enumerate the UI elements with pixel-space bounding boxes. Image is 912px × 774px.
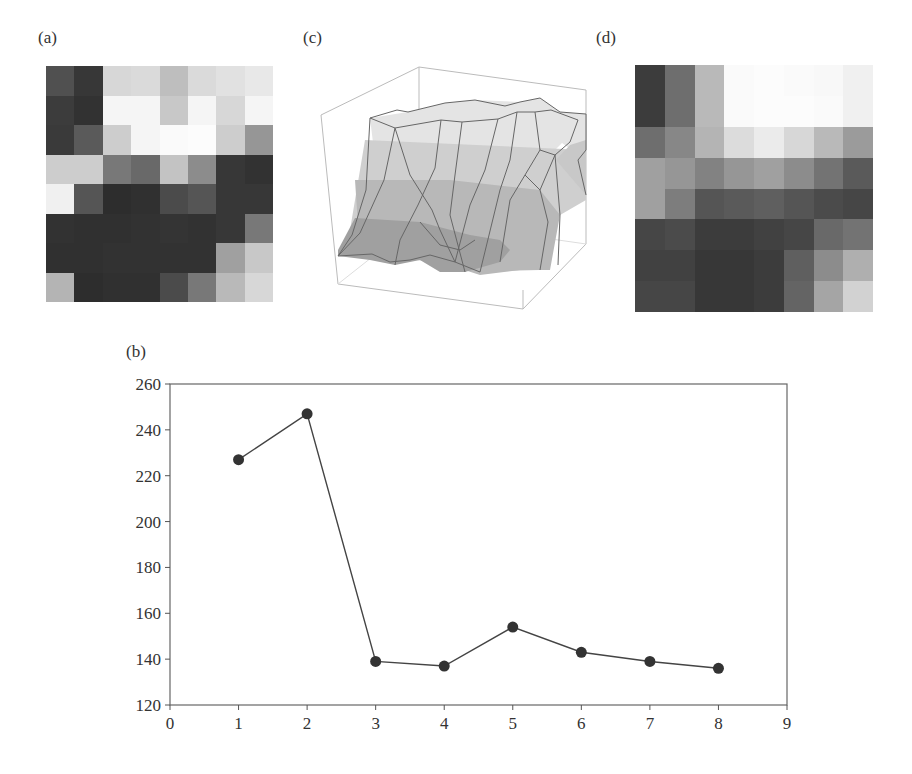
data-point-marker [644,656,655,667]
y-axis-ticks: 120140160180200220240260 [136,375,171,715]
x-tick-label: 5 [509,714,518,733]
y-tick-label: 240 [136,421,162,440]
y-tick-label: 180 [136,558,162,577]
data-point-marker [370,656,381,667]
y-tick-label: 140 [136,650,162,669]
y-tick-label: 200 [136,513,162,532]
x-tick-label: 7 [646,714,655,733]
data-point-marker [576,647,587,658]
x-tick-label: 9 [783,714,792,733]
series-line [239,414,719,669]
series-markers [233,408,724,674]
x-tick-label: 1 [234,714,243,733]
x-tick-label: 0 [166,714,175,733]
data-point-marker [439,661,450,672]
x-axis-ticks: 0123456789 [166,705,792,733]
data-point-marker [302,408,313,419]
data-point-marker [507,622,518,633]
x-tick-label: 2 [303,714,312,733]
data-point-marker [713,663,724,674]
x-tick-label: 4 [440,714,449,733]
data-point-marker [233,454,244,465]
x-tick-label: 3 [371,714,380,733]
line-chart-panel-b: 120140160180200220240260 0123456789 [0,0,912,774]
y-tick-label: 120 [136,696,162,715]
x-tick-label: 6 [577,714,586,733]
x-tick-label: 8 [714,714,723,733]
chart-axes [170,384,787,705]
y-tick-label: 220 [136,467,162,486]
y-tick-label: 160 [136,604,162,623]
y-tick-label: 260 [136,375,162,394]
